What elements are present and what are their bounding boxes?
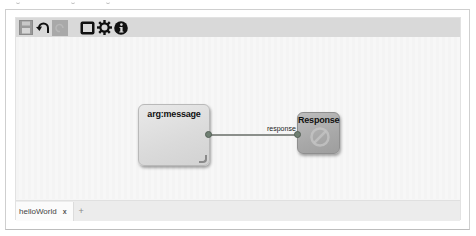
add-tab-button[interactable]: + (79, 206, 84, 216)
edge-label: response (267, 125, 296, 132)
cut-off-text-fragment (71, 0, 75, 4)
resize-handle[interactable] (199, 155, 207, 163)
node-title: arg:message (139, 109, 209, 119)
tab-bar: helloWorld x + (16, 200, 460, 221)
node-arg-message[interactable]: arg:message (138, 104, 210, 166)
gear-icon (97, 20, 112, 35)
stop-icon (309, 126, 331, 148)
undo-button[interactable] (35, 20, 51, 36)
redo-button[interactable] (52, 20, 68, 36)
undo-icon (36, 22, 50, 34)
tab-helloworld[interactable]: helloWorld x (16, 202, 74, 221)
floppy-icon (19, 20, 33, 35)
input-port[interactable] (294, 131, 301, 138)
frame-icon (80, 21, 95, 35)
tab-label: helloWorld (19, 207, 57, 216)
info-icon (114, 21, 128, 35)
settings-button[interactable] (96, 20, 112, 36)
flow-editor-panel: response arg:message Response helloWorld… (15, 17, 461, 220)
edge-connection[interactable] (208, 134, 298, 136)
node-title: Response (298, 115, 339, 125)
save-button[interactable] (18, 20, 34, 36)
info-button[interactable] (113, 20, 129, 36)
output-port[interactable] (205, 131, 212, 138)
node-response[interactable]: Response (297, 112, 340, 154)
cut-off-text-fragment (16, 0, 20, 4)
redo-icon (52, 20, 68, 36)
close-icon[interactable]: x (63, 208, 67, 215)
toolbar (16, 18, 460, 37)
cut-off-text-fragment (106, 0, 110, 4)
toggle-view-button[interactable] (79, 20, 95, 36)
flow-canvas[interactable]: response arg:message Response (16, 37, 460, 199)
